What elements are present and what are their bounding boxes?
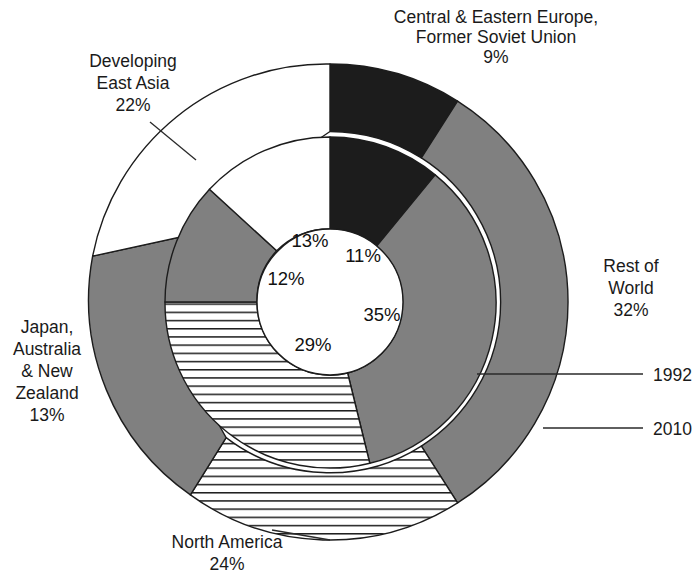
inner-value-developing-east-asia: 13% <box>291 230 328 251</box>
category-label-central-eastern-europe: Central & Eastern Europe, Former Soviet … <box>394 7 598 67</box>
cee-label-value: 9% <box>483 47 508 67</box>
dea-label-line2: East Asia <box>97 73 170 93</box>
inner-value-central-eastern-europe: 11% <box>345 245 381 266</box>
category-label-north-america: North America 24% <box>172 532 283 574</box>
janz-label-value: 13% <box>29 405 64 425</box>
na-label-line1: North America <box>172 532 283 552</box>
dea-label-value: 22% <box>115 95 150 115</box>
janz-label-line1: Japan, <box>21 317 74 337</box>
category-label-developing-east-asia: Developing East Asia 22% <box>89 51 177 115</box>
inner-value-north-america: 29% <box>294 334 331 355</box>
cee-label-line1: Central & Eastern Europe, <box>394 7 598 27</box>
row-label-line1: Rest of <box>603 256 659 276</box>
na-label-value: 24% <box>209 554 244 574</box>
cee-label-line2: Former Soviet Union <box>416 27 576 47</box>
ring-key-2010-label: 2010 <box>653 419 692 439</box>
inner-ring-1992 <box>165 137 496 468</box>
inner-value-rest-of-world: 35% <box>363 304 400 325</box>
chart-container: 13% 11% 12% 35% 29% Central & Eastern Eu… <box>0 0 692 574</box>
row-label-line2: World <box>608 278 653 298</box>
double-donut-chart: 13% 11% 12% 35% 29% Central & Eastern Eu… <box>0 0 692 574</box>
dea-label-line1: Developing <box>89 51 177 71</box>
category-label-rest-of-world: Rest of World 32% <box>603 256 659 320</box>
ring-key-1992-label: 1992 <box>653 365 692 385</box>
row-label-value: 32% <box>613 300 648 320</box>
inner-value-japan-australia-new-zealand: 12% <box>267 268 304 289</box>
janz-label-line2: Australia <box>13 339 81 359</box>
janz-label-line3: & New <box>21 361 73 381</box>
janz-label-line4: Zealand <box>15 383 78 403</box>
category-label-japan-australia-new-zealand: Japan, Australia & New Zealand 13% <box>13 317 81 425</box>
